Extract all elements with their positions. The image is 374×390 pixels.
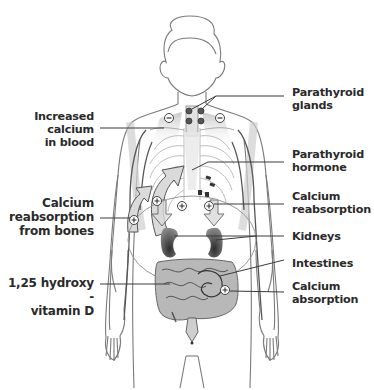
lung-marks — [198, 175, 215, 197]
leader-kidneys — [174, 236, 284, 240]
rectum — [186, 318, 198, 342]
right-kidney — [206, 228, 223, 258]
head — [160, 16, 225, 96]
right-arm — [256, 175, 279, 360]
label-intestines: Intestines — [292, 257, 353, 270]
label-parathyroid-hormone: Parathyroid hormone — [292, 148, 364, 174]
kidneys — [161, 228, 223, 258]
label-calcium-reabsorption: Calcium reabsorption — [292, 190, 371, 216]
left-kidney — [161, 228, 178, 258]
label-parathyroid-glands: Parathyroid glands — [292, 86, 364, 112]
label-calcium-reabsorption-from-bones: Calcium reabsorption from bones — [4, 196, 94, 238]
label-calcium-absorption: Calcium absorption — [292, 280, 358, 306]
label-vitamin-d: 1,25 hydroxy - vitamin D — [4, 276, 94, 318]
label-kidneys: Kidneys — [292, 230, 341, 243]
left-arm — [105, 175, 128, 360]
label-increased-calcium-in-blood: Increased calcium in blood — [28, 110, 94, 149]
intestines — [155, 259, 238, 345]
